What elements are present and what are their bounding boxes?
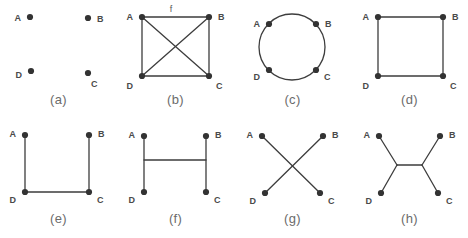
vertex-label-B: B	[98, 129, 105, 139]
vertex-C	[85, 70, 91, 76]
vertex-label-D: D	[254, 72, 261, 82]
vertex-label-C: C	[216, 81, 223, 91]
vertex-D	[262, 190, 268, 196]
graph-panel-a: ABCD(a)	[0, 0, 117, 119]
edge-A-C	[262, 136, 320, 193]
panel-caption: (d)	[351, 92, 468, 107]
vertex-C	[317, 190, 323, 196]
vertex-D	[139, 73, 145, 79]
vertex-label-B: B	[218, 12, 225, 22]
vertex-label-A: A	[129, 130, 136, 140]
vertex-C	[203, 189, 209, 195]
edge-D-i1	[381, 165, 397, 193]
panel-caption: (e)	[0, 211, 117, 226]
vertex-label-D: D	[129, 195, 136, 205]
vertex-label-D: D	[250, 196, 257, 206]
vertex-A	[376, 133, 382, 139]
vertex-D	[28, 68, 34, 74]
vertex-label-B: B	[97, 14, 104, 24]
vertex-A	[266, 21, 272, 27]
vertex-A	[22, 132, 28, 138]
vertex-D	[22, 189, 28, 195]
vertex-D	[266, 67, 272, 73]
vertex-label-A: A	[10, 129, 17, 139]
vertex-label-D: D	[10, 195, 17, 205]
vertex-D	[141, 189, 147, 195]
vertex-B	[440, 14, 446, 20]
vertex-C	[206, 73, 212, 79]
vertex-label-C: C	[450, 81, 457, 91]
graph-panel-c: ABCD(c)	[234, 0, 351, 119]
panel-caption: (b)	[117, 92, 234, 107]
vertex-label-C: C	[328, 196, 335, 206]
vertex-label-D: D	[366, 196, 373, 206]
graph-panel-g: ABCD(g)	[234, 119, 351, 238]
vertex-label-D: D	[16, 70, 23, 80]
vertex-label-C: C	[446, 196, 453, 206]
graph-panel-e: ABCD(e)	[0, 119, 117, 238]
edge-B-D	[265, 136, 323, 193]
vertex-A	[141, 133, 147, 139]
vertex-label-B: B	[215, 130, 222, 140]
vertex-A	[139, 14, 145, 20]
panel-caption: (a)	[0, 92, 117, 107]
vertex-label-A: A	[363, 12, 370, 22]
vertex-label-C: C	[91, 79, 98, 89]
vertex-label-A: A	[127, 12, 134, 22]
vertex-A	[375, 14, 381, 20]
vertex-D	[375, 73, 381, 79]
vertex-B	[86, 132, 92, 138]
vertex-C	[86, 189, 92, 195]
graph-panel-h: ABCD(h)	[351, 119, 468, 238]
vertex-D	[378, 190, 384, 196]
edge-B-i2	[422, 136, 440, 165]
vertex-B	[437, 133, 443, 139]
vertex-label-C: C	[97, 195, 104, 205]
vertex-label-C: C	[324, 72, 331, 82]
vertex-A	[27, 14, 33, 20]
edge-A-i1	[379, 136, 397, 165]
graph-figure: ABCD(a)ABCDf(b)ABCD(c)ABCD(d)ABCD(e)ABCD…	[0, 0, 468, 238]
vertex-label-D: D	[363, 81, 370, 91]
vertex-label-D: D	[127, 81, 134, 91]
graph-panel-f: ABCD(f)	[117, 119, 234, 238]
edge-C-i2	[422, 165, 438, 193]
edge-label-f: f	[170, 4, 173, 14]
vertex-label-A: A	[364, 130, 371, 140]
vertex-C	[313, 67, 319, 73]
vertex-label-C: C	[214, 195, 221, 205]
vertex-B	[206, 14, 212, 20]
vertex-A	[259, 133, 265, 139]
vertex-B	[203, 133, 209, 139]
vertex-label-B: B	[452, 12, 459, 22]
vertex-label-A: A	[15, 13, 22, 23]
panel-caption: (c)	[234, 92, 351, 107]
graph-panel-b: ABCDf(b)	[117, 0, 234, 119]
panel-caption: (h)	[351, 211, 468, 226]
vertex-C	[435, 190, 441, 196]
panel-caption: (f)	[117, 211, 234, 226]
vertex-label-A: A	[254, 19, 261, 29]
vertex-label-B: B	[332, 130, 339, 140]
vertex-label-A: A	[247, 130, 254, 140]
vertex-B	[313, 21, 319, 27]
vertex-label-B: B	[325, 19, 332, 29]
graph-panel-d: ABCD(d)	[351, 0, 468, 119]
vertex-label-B: B	[449, 130, 456, 140]
vertex-C	[440, 73, 446, 79]
panel-caption: (g)	[234, 211, 351, 226]
vertex-B	[85, 15, 91, 21]
vertex-B	[320, 133, 326, 139]
